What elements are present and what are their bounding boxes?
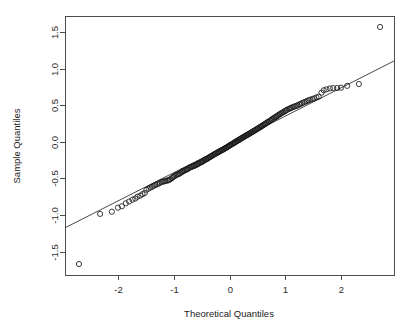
x-axis-title: Theoretical Quantiles bbox=[184, 308, 274, 319]
figure-background bbox=[0, 0, 413, 333]
x-tick-label: 1 bbox=[283, 284, 288, 295]
x-tick-label: -2 bbox=[114, 284, 122, 295]
qq-plot-figure: -2-1012 -1.5-1.0-0.50.00.51.01.5 Theoret… bbox=[0, 0, 413, 333]
x-tick-label: 2 bbox=[339, 284, 344, 295]
y-tick-label: -0.5 bbox=[49, 170, 60, 186]
y-tick-label: 0.0 bbox=[49, 136, 60, 149]
y-tick-label: 0.5 bbox=[49, 99, 60, 112]
y-tick-label: -1.0 bbox=[49, 207, 60, 223]
x-tick-label: 0 bbox=[228, 284, 233, 295]
y-tick-label: 1.0 bbox=[49, 63, 60, 76]
qq-plot-canvas: -2-1012 -1.5-1.0-0.50.00.51.01.5 Theoret… bbox=[0, 0, 413, 333]
y-tick-label: -1.5 bbox=[49, 244, 60, 260]
y-axis-title: Sample Quantiles bbox=[11, 108, 22, 183]
y-tick-label: 1.5 bbox=[49, 26, 60, 39]
x-tick-label: -1 bbox=[170, 284, 178, 295]
